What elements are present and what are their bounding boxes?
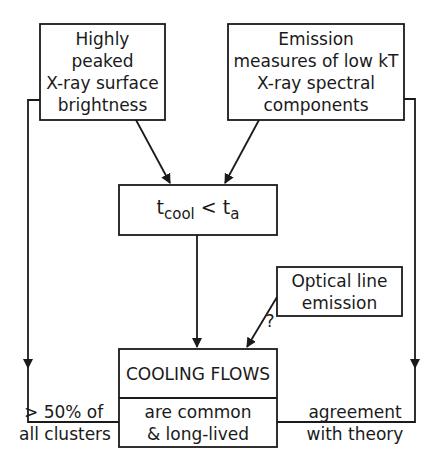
arrow-emission-to-timescale (225, 120, 259, 183)
right-edge-label: agreement with theory (290, 401, 420, 445)
timescale-text: tcool < ta (119, 196, 277, 225)
optical-text: Optical line emission (277, 270, 402, 314)
emission-measures-text: Emission measures of low kT X-ray spectr… (228, 28, 404, 116)
arrow-surface-to-timescale (136, 120, 170, 183)
arrow-right-feedback (404, 99, 415, 368)
arrow-left-feedback (28, 100, 40, 368)
cooling-flows-title: COOLING FLOWS (119, 363, 277, 385)
left-edge-label: > 50% of all clusters (10, 401, 120, 445)
surface-brightness-text: Highly peaked X-ray surface brightness (40, 28, 165, 116)
question-mark: ? (260, 310, 280, 332)
cooling-flows-text: are common & long-lived (119, 401, 277, 445)
